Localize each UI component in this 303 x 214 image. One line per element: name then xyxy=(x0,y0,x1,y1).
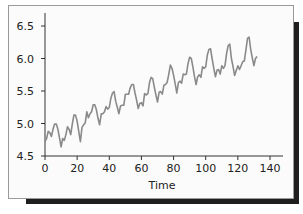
y-tick-label: 5.0 xyxy=(17,118,35,131)
x-tick-label: 140 xyxy=(260,162,281,175)
y-tick-label: 6.0 xyxy=(17,53,35,66)
series-line xyxy=(45,37,257,147)
x-tick-label: 60 xyxy=(134,162,148,175)
line-chart: 4.55.05.56.06.5020406080100120140 Time xyxy=(0,0,303,214)
x-axis-label: Time xyxy=(148,179,176,192)
x-tick-label: 80 xyxy=(167,162,181,175)
y-tick-label: 4.5 xyxy=(17,150,35,163)
axes: 4.55.05.56.06.5020406080100120140 xyxy=(17,13,284,175)
x-tick-label: 40 xyxy=(102,162,116,175)
x-tick-label: 20 xyxy=(70,162,84,175)
y-tick-label: 6.5 xyxy=(17,20,35,33)
x-tick-label: 120 xyxy=(227,162,248,175)
y-tick-label: 5.5 xyxy=(17,85,35,98)
x-tick-label: 100 xyxy=(195,162,216,175)
x-tick-label: 0 xyxy=(42,162,49,175)
